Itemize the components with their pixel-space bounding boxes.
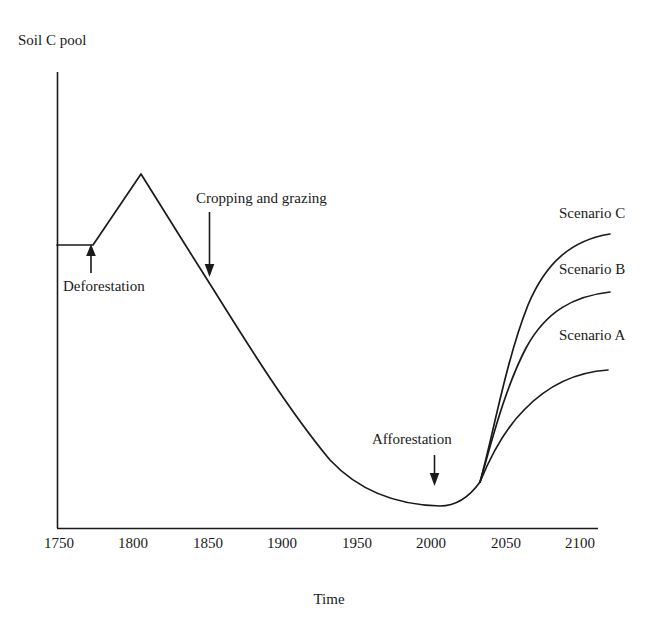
x-tick-label-1900: 1900: [254, 536, 310, 551]
annotation-afforestation: Afforestation: [372, 432, 452, 447]
x-tick-label-1800: 1800: [105, 536, 161, 551]
x-tick-label-2000: 2000: [403, 536, 459, 551]
x-tick-label-2050: 2050: [478, 536, 534, 551]
afforestation-arrow-icon: [430, 455, 440, 486]
x-tick-label-1950: 1950: [329, 536, 385, 551]
soil-carbon-pool-figure: Soil C pool Time 1750 1800 1850 1900 195…: [0, 0, 658, 636]
series-label-scenario-a: Scenario A: [559, 328, 625, 343]
scenario-a-curve: [480, 370, 608, 482]
cropping-and-grazing-arrow-icon: [205, 212, 215, 277]
series-label-scenario-c: Scenario C: [559, 206, 625, 221]
annotation-deforestation: Deforestation: [63, 279, 145, 294]
x-tick-label-1750: 1750: [31, 536, 87, 551]
deforestation-arrow-icon: [86, 244, 96, 273]
annotation-cropping-and-grazing: Cropping and grazing: [196, 191, 327, 206]
x-axis-label: Time: [0, 592, 658, 607]
x-tick-label-1850: 1850: [180, 536, 236, 551]
scenario-b-curve: [480, 292, 610, 482]
y-axis-label: Soil C pool: [18, 33, 86, 48]
x-tick-label-2100: 2100: [552, 536, 608, 551]
historic-soil-c-curve: [57, 174, 480, 506]
series-label-scenario-b: Scenario B: [559, 262, 625, 277]
